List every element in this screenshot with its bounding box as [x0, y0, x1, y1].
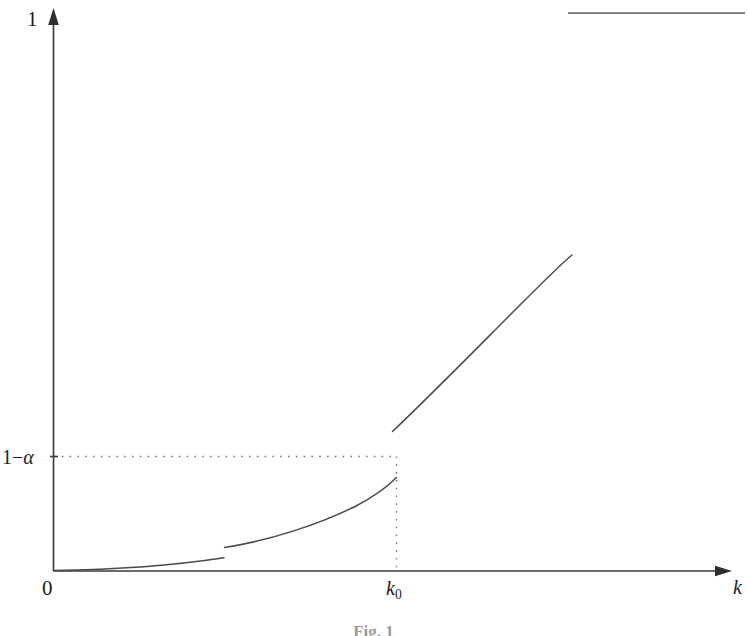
x-axis-arrow-icon — [715, 566, 732, 576]
k0-subscript: 0 — [395, 587, 402, 602]
k0-base-symbol: k — [386, 577, 395, 599]
alpha-symbol: α — [23, 446, 34, 468]
x-axis — [54, 566, 733, 576]
y-axis-threshold-label: 1−α — [2, 447, 34, 467]
curve-lower-segment-2 — [225, 478, 397, 548]
curve-upper-segment — [393, 255, 573, 432]
figure-caption: Fig. 1 — [0, 622, 747, 636]
figure-container: 1 1−α 0 k0 k Fig. 1 — [0, 0, 747, 636]
x-axis-threshold-label: k0 — [386, 578, 402, 601]
y-threshold-prefix: 1− — [2, 446, 23, 468]
curve-lower-segment-1 — [54, 558, 225, 571]
origin-label: 0 — [42, 578, 53, 599]
x-axis-label: k — [733, 577, 742, 597]
y-axis-max-label: 1 — [27, 9, 38, 30]
threshold-guides — [54, 457, 397, 571]
y-axis-arrow-icon — [48, 8, 59, 25]
y-axis — [48, 8, 59, 571]
plot-canvas — [0, 0, 747, 636]
